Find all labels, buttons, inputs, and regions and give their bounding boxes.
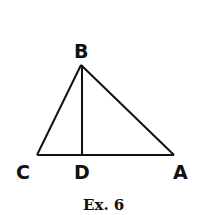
figure-caption: Ex. 6 [83, 196, 124, 214]
label-d: D [74, 161, 90, 183]
label-b: B [74, 40, 88, 62]
triangle-diagram: B C D A Ex. 6 [0, 0, 202, 215]
label-c: C [16, 161, 30, 183]
segment-ba [81, 65, 174, 155]
label-a: A [173, 161, 188, 183]
segment-bc [37, 65, 81, 155]
